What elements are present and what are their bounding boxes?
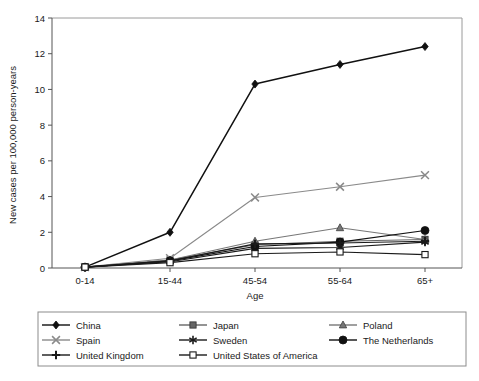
series-united-states-of-america	[82, 249, 428, 270]
y-axis-ticks: 02468101214	[34, 13, 52, 274]
marker-open-square	[82, 264, 88, 270]
legend-label: The Netherlands	[363, 335, 433, 346]
legend-item-sweden[interactable]: Sweden	[179, 335, 247, 346]
legend-item-japan[interactable]: Japan	[179, 320, 239, 331]
x-axis-ticks: 0-1415-4445-5455-6465+	[75, 268, 433, 286]
marker-filled-square	[190, 322, 196, 328]
legend-item-united-states-of-america[interactable]: United States of America	[179, 350, 318, 361]
legend-item-china[interactable]: China	[42, 320, 102, 331]
x-tick-label: 55-64	[328, 275, 352, 286]
y-tick-label: 4	[40, 191, 45, 202]
marker-filled-triangle	[336, 224, 343, 231]
legend-label: Poland	[363, 320, 393, 331]
marker-filled-circle	[339, 336, 347, 344]
line-chart-canvas: 02468101214 0-1415-4445-5455-6465+ New c…	[0, 0, 479, 381]
legend-label: United Kingdom	[76, 350, 144, 361]
y-tick-label: 2	[40, 227, 45, 238]
series-layer	[81, 43, 429, 272]
marker-open-square	[252, 251, 258, 257]
chart-legend: ChinaJapanPolandSpainSwedenThe Netherlan…	[38, 312, 466, 366]
marker-open-square	[337, 249, 343, 255]
x-axis-title: Age	[247, 290, 264, 301]
legend-item-the-netherlands[interactable]: The Netherlands	[329, 335, 433, 346]
plot-frame	[52, 18, 462, 268]
x-tick-label: 0-14	[75, 275, 94, 286]
legend-label: Spain	[76, 335, 100, 346]
x-tick-label: 65+	[417, 275, 434, 286]
marker-filled-diamond	[53, 321, 59, 329]
legend-item-spain[interactable]: Spain	[42, 335, 100, 346]
marker-plus	[52, 351, 60, 359]
chart-figure: 02468101214 0-1415-4445-5455-6465+ New c…	[0, 0, 479, 381]
y-axis-title: New cases per 100,000 person-years	[7, 66, 18, 224]
legend-label: United States of America	[213, 350, 318, 361]
x-tick-label: 15-44	[158, 275, 182, 286]
marker-open-square	[190, 352, 196, 358]
legend-item-poland[interactable]: Poland	[329, 320, 393, 331]
y-tick-label: 12	[34, 48, 45, 59]
y-tick-label: 10	[34, 84, 45, 95]
legend-item-united-kingdom[interactable]: United Kingdom	[42, 350, 144, 361]
y-tick-label: 8	[40, 120, 45, 131]
y-tick-label: 6	[40, 155, 45, 166]
marker-filled-circle	[421, 227, 429, 235]
marker-open-square	[167, 260, 173, 266]
marker-filled-diamond	[422, 43, 428, 51]
x-tick-label: 45-54	[243, 275, 267, 286]
legend-label: China	[76, 320, 102, 331]
marker-open-square	[422, 252, 428, 258]
y-tick-label: 14	[34, 13, 45, 24]
legend-label: Japan	[213, 320, 239, 331]
marker-filled-diamond	[337, 60, 343, 68]
y-tick-label: 0	[40, 263, 45, 274]
legend-label: Sweden	[213, 335, 247, 346]
